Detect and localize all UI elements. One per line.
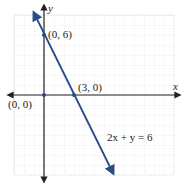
point-origin (42, 93, 46, 97)
origin-label: (0, 0) (8, 99, 32, 110)
point-y-intercept (42, 33, 46, 37)
y-intercept-label: (0, 6) (48, 29, 72, 40)
equation-label: 2x + y = 6 (107, 132, 152, 143)
y-axis-label: y (48, 3, 53, 14)
x-axis-label: x (173, 81, 178, 92)
x-intercept-label: (3, 0) (78, 82, 102, 93)
point-x-intercept (72, 93, 76, 97)
